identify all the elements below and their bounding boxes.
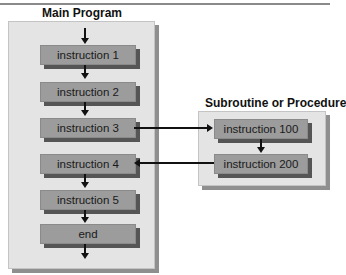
arrow-4-5-head bbox=[81, 182, 89, 188]
return-connector-line bbox=[140, 162, 214, 164]
step-instruction-100: instruction 100 bbox=[214, 119, 308, 139]
step-end: end bbox=[40, 224, 136, 244]
arrow-2-3-head bbox=[81, 110, 89, 116]
step-instruction-5: instruction 5 bbox=[40, 190, 136, 210]
call-connector-head bbox=[207, 124, 213, 132]
call-connector-line bbox=[134, 127, 208, 129]
step-instruction-200: instruction 200 bbox=[214, 154, 308, 174]
top-rule bbox=[0, 3, 330, 5]
step-instruction-4: instruction 4 bbox=[40, 154, 136, 174]
arrow-1-2-head bbox=[81, 73, 89, 79]
subroutine-title: Subroutine or Procedure bbox=[205, 96, 346, 110]
arrow-100-200-head bbox=[257, 147, 265, 153]
step-instruction-3: instruction 3 bbox=[40, 118, 136, 138]
arrow-5-end-head bbox=[81, 217, 89, 223]
return-connector-head bbox=[134, 159, 140, 167]
exit-arrow-head bbox=[81, 253, 89, 259]
step-instruction-1: instruction 1 bbox=[40, 45, 136, 65]
step-instruction-2: instruction 2 bbox=[40, 82, 136, 102]
main-program-title: Main Program bbox=[42, 6, 122, 20]
entry-arrow-head bbox=[81, 38, 89, 44]
